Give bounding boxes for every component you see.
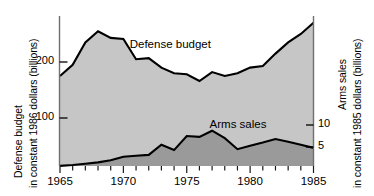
- chart-text-overlay: 10020051019651970197519801985Defense bud…: [0, 0, 374, 196]
- right-tick-label-10: 10: [318, 117, 330, 129]
- right-tick-label-5: 5: [318, 139, 324, 151]
- x-tick-label-1965: 1965: [30, 175, 90, 187]
- x-tick-label-1975: 1975: [157, 175, 217, 187]
- arms-sales-annotation: Arms sales: [210, 118, 267, 130]
- x-tick-label-1980: 1980: [220, 175, 280, 187]
- defense-budget-annotation: Defense budget: [130, 38, 211, 50]
- x-tick-label-1985: 1985: [284, 175, 344, 187]
- left-tick-label-200: 200: [0, 54, 54, 66]
- x-tick-label-1970: 1970: [93, 175, 153, 187]
- chart-figure: Defense budget in constant 1986 dollars …: [0, 0, 374, 196]
- left-tick-label-100: 100: [0, 110, 54, 122]
